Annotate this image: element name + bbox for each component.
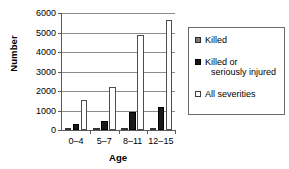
y-axis-title: Number	[8, 19, 19, 89]
legend-label-killed: Killed	[205, 35, 227, 46]
bar-ksi	[101, 121, 108, 130]
x-tick-label: 0–4	[69, 136, 84, 146]
plot-area: 01000200030004000500060000–45–78–1112–15	[61, 13, 175, 131]
x-tick-label: 8–11	[123, 136, 142, 146]
y-tick-label: 5000	[36, 28, 56, 38]
bar-group	[90, 13, 118, 130]
legend-swatch-killed-icon	[195, 37, 201, 43]
bar-ksi	[73, 124, 80, 130]
y-tick-label: 3000	[36, 67, 56, 77]
legend-swatch-all-severities-icon	[195, 91, 201, 97]
bar-all	[166, 20, 173, 130]
legend-item-all-severities: All severities	[195, 89, 279, 100]
bar-group	[147, 13, 175, 130]
y-tick-label: 6000	[36, 8, 56, 18]
y-tick-mark	[58, 130, 62, 131]
x-tick-mark	[90, 130, 91, 134]
legend-label-all-severities: All severities	[205, 89, 256, 100]
legend-item-killed: Killed	[195, 35, 279, 46]
bar-group	[62, 13, 90, 130]
bar-group	[119, 13, 147, 130]
bar-chart-figure: Number 01000200030004000500060000–45–78–…	[0, 0, 289, 169]
bar-killed	[121, 128, 128, 130]
y-tick-label: 4000	[36, 47, 56, 57]
x-tick-mark	[119, 130, 120, 134]
bar-all	[109, 87, 116, 130]
y-tick-label: 2000	[36, 86, 56, 96]
bar-ksi	[158, 107, 165, 130]
x-tick-mark	[147, 130, 148, 134]
bar-killed	[65, 128, 72, 130]
chart-legend: Killed Killed or seriously injured All s…	[188, 27, 285, 115]
y-tick-label: 0	[51, 125, 56, 135]
bar-all	[137, 35, 144, 130]
bar-killed	[150, 128, 157, 130]
legend-label-ksi: Killed or seriously injured	[205, 57, 276, 78]
x-tick-mark	[175, 130, 176, 134]
legend-label-ksi-line2: seriously injured	[205, 67, 276, 78]
bar-ksi	[129, 112, 136, 130]
bar-killed	[93, 128, 100, 130]
legend-swatch-ksi-icon	[195, 59, 201, 65]
y-tick-label: 1000	[36, 106, 56, 116]
x-tick-label: 12–15	[148, 136, 173, 146]
legend-item-ksi: Killed or seriously injured	[195, 57, 279, 78]
x-tick-label: 5–7	[97, 136, 112, 146]
bar-all	[81, 100, 88, 130]
legend-label-ksi-line1: Killed or	[205, 57, 238, 67]
x-axis-title: Age	[61, 152, 175, 163]
